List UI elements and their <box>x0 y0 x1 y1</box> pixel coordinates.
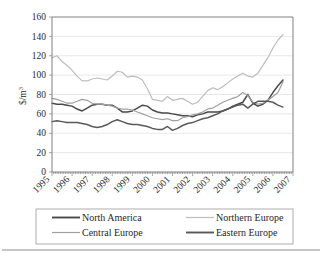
x-axis-tick-labels: 1995199619971998199920002001200220032004… <box>31 174 293 195</box>
x-tick-label: 2002 <box>171 174 192 195</box>
x-tick-label: 2005 <box>232 174 253 195</box>
legend-items: North AmericaNorthern EuropeCentral Euro… <box>52 212 284 238</box>
y-axis-label: $/m3 <box>17 87 29 105</box>
series-line <box>52 34 283 104</box>
legend-label: Central Europe <box>82 227 143 238</box>
y-tick-label: 80 <box>37 90 47 100</box>
x-tick-label: 2004 <box>212 174 233 195</box>
x-tick-label: 2006 <box>252 174 273 195</box>
x-tick-label: 1999 <box>111 174 132 195</box>
x-tick-label: 2001 <box>151 174 172 195</box>
y-tick-label: 120 <box>32 51 47 61</box>
chart-container: 020406080100120140160 199519961997199819… <box>0 0 322 254</box>
x-tick-label: 1997 <box>71 174 92 195</box>
x-tick-label: 2007 <box>272 174 293 195</box>
x-tick-label: 1998 <box>91 174 112 195</box>
x-tick-label: 2000 <box>131 174 152 195</box>
legend-item: North America <box>52 212 142 223</box>
legend-label: Northern Europe <box>216 212 284 223</box>
y-axis-tick-labels: 020406080100120140160 <box>32 12 47 177</box>
chart-legend: North AmericaNorthern EuropeCentral Euro… <box>36 209 293 244</box>
legend-item: Central Europe <box>52 227 143 238</box>
series-line <box>52 80 283 117</box>
y-tick-label: 60 <box>37 109 47 119</box>
y-tick-label: 140 <box>32 32 47 42</box>
y-tick-label: 100 <box>32 70 47 80</box>
y-tick-label: 160 <box>32 12 47 22</box>
series-lines-group <box>52 34 283 130</box>
x-tick-label: 1996 <box>51 174 72 195</box>
series-line <box>52 82 283 121</box>
legend-item: Northern Europe <box>186 212 284 223</box>
y-tick-label: 40 <box>37 128 47 138</box>
legend-label: Eastern Europe <box>216 227 278 238</box>
legend-label: North America <box>82 212 142 223</box>
legend-item: Eastern Europe <box>186 227 278 238</box>
series-line <box>52 101 283 130</box>
x-tick-label: 2003 <box>192 174 213 195</box>
line-chart: 020406080100120140160 199519961997199819… <box>0 0 322 254</box>
x-axis-tick-marks <box>52 172 293 176</box>
gridlines-group <box>52 36 293 152</box>
svg-text:$/m3: $/m3 <box>17 87 29 105</box>
x-tick-label: 1995 <box>31 174 52 195</box>
y-tick-label: 20 <box>37 148 47 158</box>
